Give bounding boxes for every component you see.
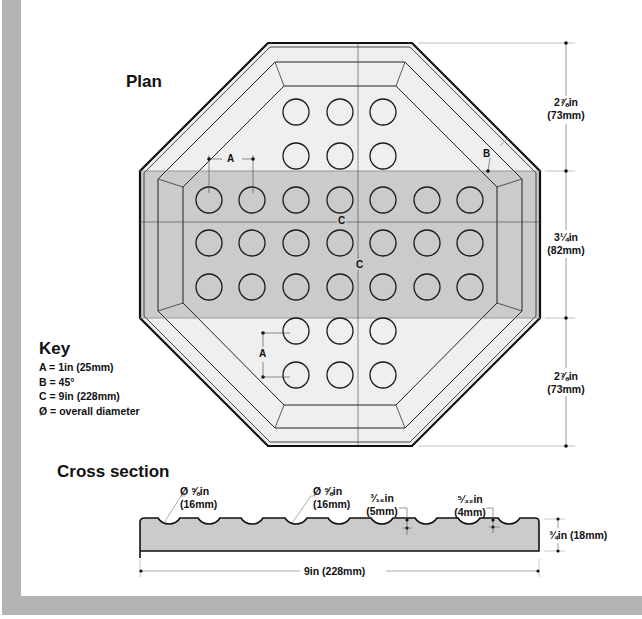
key-item-diameter: Ø = overall diameter bbox=[39, 404, 140, 419]
dimension-top-section: 2⅞in (73mm) bbox=[540, 96, 592, 122]
callout-dip-depth: ⁵⁄₃₂in (4mm) bbox=[452, 493, 488, 519]
callout-diameter-1-mm: (16mm) bbox=[180, 498, 217, 511]
callout-diameter-2: Ø ⅝in (16mm) bbox=[313, 485, 350, 511]
plan-title: Plan bbox=[126, 72, 162, 92]
diagram-canvas bbox=[0, 0, 642, 619]
dimension-bottom-section: 2⅞in (73mm) bbox=[540, 370, 592, 396]
label-a-top: A bbox=[227, 153, 234, 164]
key-list: A = 1in (25mm) B = 45° C = 9in (228mm) Ø… bbox=[39, 360, 140, 418]
callout-diameter-1: Ø ⅝in (16mm) bbox=[180, 485, 217, 511]
width-dimension: 9in (228mm) bbox=[304, 565, 365, 578]
callout-diameter-1-inches: Ø ⅝in bbox=[180, 485, 217, 498]
callout-dot-height: ³⁄₁₆in (5mm) bbox=[364, 492, 400, 518]
callout-dip-depth-mm: (4mm) bbox=[452, 506, 488, 519]
cross-section-title: Cross section bbox=[57, 462, 169, 482]
dimension-middle-mm: (82mm) bbox=[540, 244, 592, 257]
dimension-bottom-mm: (73mm) bbox=[540, 383, 592, 396]
key-title: Key bbox=[39, 339, 70, 359]
dimension-bottom-inches: 2⅞in bbox=[540, 370, 592, 383]
dimension-middle-inches: 3¼in bbox=[540, 231, 592, 244]
key-item-b: B = 45° bbox=[39, 375, 140, 390]
label-b: B bbox=[483, 148, 490, 159]
label-a-bottom: A bbox=[259, 348, 266, 359]
key-item-a: A = 1in (25mm) bbox=[39, 360, 140, 375]
dimension-middle-section: 3¼in (82mm) bbox=[540, 231, 592, 257]
plan-tile bbox=[140, 43, 540, 446]
label-c-horizontal: C bbox=[337, 215, 346, 226]
thickness-dimension: ¾in (18mm) bbox=[549, 529, 607, 542]
dimension-top-inches: 2⅞in bbox=[540, 96, 592, 109]
label-c-vertical: C bbox=[355, 259, 364, 270]
callout-dot-height-inches: ³⁄₁₆in bbox=[364, 492, 400, 505]
callout-dip-depth-inches: ⁵⁄₃₂in bbox=[452, 493, 488, 506]
key-item-c: C = 9in (228mm) bbox=[39, 389, 140, 404]
callout-diameter-2-inches: Ø ⅝in bbox=[313, 485, 350, 498]
callout-diameter-2-mm: (16mm) bbox=[313, 498, 350, 511]
dimension-top-mm: (73mm) bbox=[540, 109, 592, 122]
callout-dot-height-mm: (5mm) bbox=[364, 505, 400, 518]
